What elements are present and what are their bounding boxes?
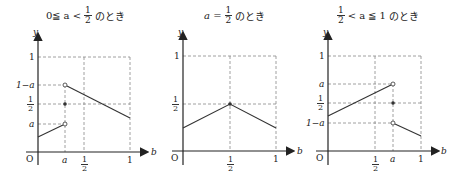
- graph1-title: 0≦ a < 12 のとき: [46, 6, 125, 25]
- x-tick-1: 1: [127, 156, 133, 165]
- y-axis-label: y: [323, 28, 328, 37]
- graph3-title: 12 < a ≦ 1 のとき: [337, 6, 419, 25]
- title-fraction: 12: [225, 6, 233, 25]
- origin-label: O: [26, 155, 33, 164]
- origin-label: O: [171, 154, 178, 163]
- title-prefix: 0≦ a <: [46, 10, 81, 21]
- graph2-title: a = 12 のとき: [204, 6, 265, 25]
- title-fraction: 12: [337, 6, 345, 25]
- title-suffix: のとき: [389, 8, 419, 23]
- x-tick-half: 12: [227, 156, 234, 173]
- x-axis-label: b: [151, 148, 157, 157]
- origin-label: O: [316, 154, 323, 163]
- x-tick-a: a: [62, 156, 67, 165]
- y-tick-1-minus-a: 1−a: [16, 81, 35, 90]
- x-tick-half: 12: [372, 156, 379, 173]
- title-suffix: のとき: [95, 8, 125, 23]
- y-tick-1-minus-a: 1−a: [306, 119, 325, 128]
- y-tick-a: a: [319, 80, 324, 89]
- title-condition: < a ≦ 1: [348, 10, 386, 21]
- x-tick-1: 1: [418, 155, 424, 164]
- y-axis-label: y: [178, 28, 183, 37]
- title-fraction: 12: [84, 6, 92, 25]
- y-tick-a: a: [29, 120, 34, 129]
- x-tick-a: a: [390, 155, 395, 164]
- x-tick-1: 1: [273, 155, 279, 164]
- y-axis-label: y: [33, 28, 38, 37]
- y-tick-half: 12: [172, 96, 179, 113]
- x-axis-label: b: [297, 147, 303, 156]
- y-tick-1: 1: [174, 52, 180, 61]
- y-tick-half: 12: [27, 96, 34, 113]
- x-axis-label: b: [441, 147, 447, 156]
- title-prefix: a =: [204, 10, 222, 21]
- graphs-canvas: [0, 0, 466, 182]
- y-tick-half: 12: [317, 95, 324, 112]
- y-tick-1: 1: [319, 52, 325, 61]
- y-tick-1: 1: [29, 53, 35, 62]
- x-tick-half: 12: [81, 156, 88, 173]
- title-suffix: のとき: [235, 8, 265, 23]
